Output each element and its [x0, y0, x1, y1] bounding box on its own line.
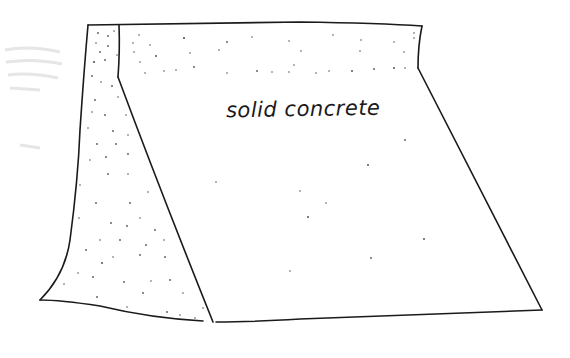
concrete-wall-diagram — [0, 0, 570, 358]
stipple-top-band — [132, 32, 415, 74]
wall-outline — [40, 22, 542, 322]
bleed-through-marks — [5, 48, 62, 148]
stipple-main-face — [215, 139, 425, 272]
solid-concrete-label: solid concrete — [226, 96, 381, 123]
